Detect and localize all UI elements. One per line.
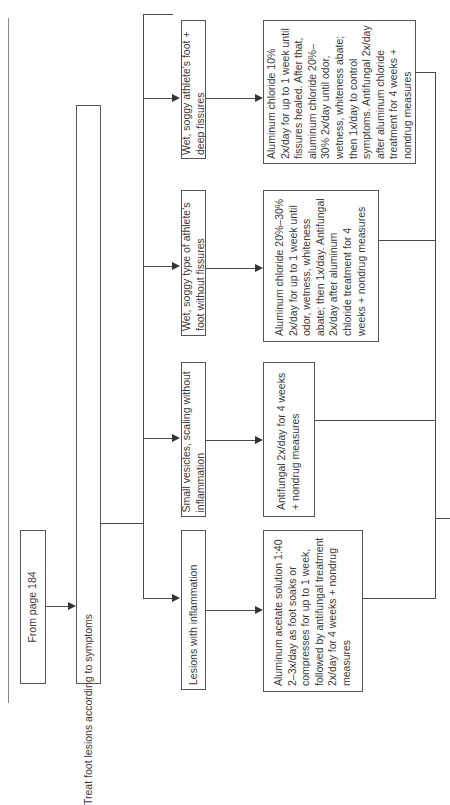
treatment-box-deep-fissures: Aluminum chloride 10% 2x/day for up to 1…	[263, 20, 416, 164]
start-box: From page 184	[20, 530, 46, 684]
merge-exit	[435, 518, 450, 519]
treatment-box-inflammation: Aluminum acetate solution 1:40 2–3x/day …	[263, 530, 363, 692]
condition-label: Lesions with inflammation	[187, 535, 201, 685]
connector	[206, 610, 256, 611]
connector-root-trunk	[101, 523, 143, 524]
condition-box-inflammation: Lesions with inflammation	[181, 530, 206, 690]
arrow-icon	[255, 606, 263, 614]
treatment-box-vesicles: Antifungal 2x/day for 4 weeks + nondrug …	[263, 362, 315, 517]
connector	[206, 440, 256, 441]
merge-connector	[379, 240, 436, 241]
condition-box-deep-fissures: Wet, soggy athlete's foot + deep fissure…	[181, 20, 206, 159]
branch-trunk	[143, 14, 144, 599]
arrow-icon	[172, 94, 180, 102]
merge-trunk	[435, 72, 436, 599]
treatment-box-no-fissures: Aluminum chloride 20%–30% 2x/day for up …	[263, 190, 379, 342]
arrow-icon	[172, 594, 180, 602]
treatment-text: Antifungal 2x/day for 4 weeks + nondrug …	[275, 370, 302, 510]
merge-connector	[363, 598, 436, 599]
treatment-text: Aluminum chloride 20%–30% 2x/day for up …	[273, 196, 368, 336]
root-box: Treat foot lesions according to symptoms	[76, 105, 101, 684]
arrow-icon	[172, 434, 180, 442]
branch-connector-4b	[143, 98, 173, 99]
connector	[206, 98, 256, 99]
merge-connector	[416, 72, 436, 73]
connector	[206, 268, 256, 269]
merge-connector	[315, 420, 436, 421]
arrow-icon	[255, 94, 263, 102]
condition-label: Wet, soggy type of athlete's foot withou…	[180, 195, 207, 331]
condition-box-no-fissures: Wet, soggy type of athlete's foot withou…	[181, 190, 206, 336]
arrow-icon	[68, 602, 76, 610]
condition-box-vesicles: Small vesicles, scaling without inflamma…	[181, 362, 206, 517]
condition-label: Wet, soggy athlete's foot + deep fissure…	[180, 25, 207, 155]
arrow-icon	[255, 264, 263, 272]
arrow-icon	[172, 262, 180, 270]
branch-connector-2	[143, 438, 173, 439]
treatment-text: Aluminum chloride 10% 2x/day for up to 1…	[265, 25, 415, 159]
treatment-text: Aluminum acetate solution 1:40 2–3x/day …	[272, 536, 354, 686]
branch-connector-4	[143, 14, 173, 15]
branch-connector-3	[143, 266, 173, 267]
branch-connector-1	[143, 598, 173, 599]
root-label: Treat foot lesions according to symptoms	[82, 245, 96, 805]
page-rule	[8, 18, 9, 703]
connector-start-root	[46, 606, 70, 607]
condition-label: Small vesicles, scaling without inflamma…	[180, 367, 207, 512]
start-label: From page 184	[26, 532, 40, 682]
arrow-icon	[255, 436, 263, 444]
